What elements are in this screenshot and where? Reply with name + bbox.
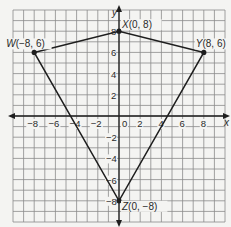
vertex-label-y: Y(8, 6) xyxy=(196,38,226,49)
vertex-point-y xyxy=(201,50,206,55)
vertex-label-z: Z(0, −8) xyxy=(121,201,157,212)
coordinate-plane: xy −8−6−4−2024688642−2−4−6−8 W(−8, 6)X(0… xyxy=(0,0,231,227)
y-tick-label: −2 xyxy=(106,132,117,143)
vertex-point-z xyxy=(116,198,121,203)
y-tick-label: 2 xyxy=(111,90,116,101)
x-tick-label: −2 xyxy=(91,118,102,129)
y-tick-label: 4 xyxy=(111,69,116,80)
x-tick-label: 0 xyxy=(122,118,127,129)
vertex-point-w xyxy=(32,50,37,55)
x-tick-label: 8 xyxy=(201,118,206,129)
x-axis-label: x xyxy=(223,117,230,128)
y-axis-label: y xyxy=(111,7,118,18)
y-tick-label: −8 xyxy=(106,196,117,207)
x-tick-label: −8 xyxy=(27,118,38,129)
y-axis-down-arrow-icon xyxy=(116,220,122,227)
x-tick-label: 2 xyxy=(137,118,142,129)
x-tick-label: 6 xyxy=(180,118,185,129)
vertex-label-w: W(−8, 6) xyxy=(6,38,45,49)
vertex-label-x: X(0, 8) xyxy=(121,19,152,30)
y-tick-label: 6 xyxy=(111,47,116,58)
vertex-point-x xyxy=(116,29,121,34)
y-tick-label: −4 xyxy=(106,153,117,164)
x-tick-label: −6 xyxy=(48,118,59,129)
x-axis-left-arrow-icon xyxy=(8,113,15,119)
